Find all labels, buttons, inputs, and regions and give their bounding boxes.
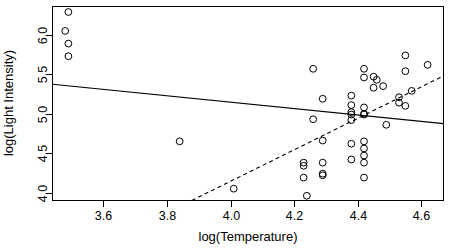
data-point bbox=[361, 159, 368, 166]
data-point bbox=[424, 61, 431, 68]
x-tick-label: 4.6 bbox=[413, 209, 430, 223]
chart-canvas: 4.04.55.05.56.0 3.63.84.04.24.44.6 log(T… bbox=[0, 0, 453, 248]
y-tick-label: 4.5 bbox=[36, 145, 50, 162]
data-point bbox=[361, 145, 368, 152]
x-tick-label: 4.4 bbox=[350, 209, 367, 223]
x-tick-label: 4.2 bbox=[286, 209, 303, 223]
data-point bbox=[348, 140, 355, 147]
data-point bbox=[361, 74, 368, 81]
data-point bbox=[303, 192, 310, 199]
data-point bbox=[402, 68, 409, 75]
fit-line-robust-fit bbox=[192, 76, 444, 201]
data-point bbox=[62, 28, 69, 35]
data-point bbox=[348, 92, 355, 99]
data-point bbox=[361, 65, 368, 72]
fitted-lines bbox=[53, 76, 444, 201]
data-point bbox=[319, 137, 326, 144]
data-point bbox=[176, 138, 183, 145]
y-axis-title: log(Light Intensity) bbox=[1, 50, 16, 156]
data-point bbox=[230, 185, 237, 192]
data-point bbox=[361, 104, 368, 111]
x-axis-ticks bbox=[104, 201, 422, 207]
y-tick-label: 4.0 bbox=[36, 185, 50, 202]
data-point bbox=[402, 102, 409, 109]
data-point bbox=[65, 40, 72, 47]
data-point bbox=[361, 152, 368, 159]
x-tick-label: 3.8 bbox=[159, 209, 176, 223]
data-point bbox=[310, 65, 317, 72]
y-tick-label: 5.0 bbox=[36, 106, 50, 123]
x-tick-label: 3.6 bbox=[95, 209, 112, 223]
x-axis-tick-labels: 3.63.84.04.24.44.6 bbox=[95, 209, 430, 223]
scatter-plot-figure: 4.04.55.05.56.0 3.63.84.04.24.44.6 log(T… bbox=[0, 0, 453, 248]
data-point bbox=[361, 174, 368, 181]
data-point bbox=[319, 159, 326, 166]
data-point bbox=[361, 138, 368, 145]
x-axis-title: log(Temperature) bbox=[199, 229, 298, 244]
data-point bbox=[402, 52, 409, 59]
data-point bbox=[370, 84, 377, 91]
data-point bbox=[319, 170, 326, 177]
data-point bbox=[319, 172, 326, 179]
data-point bbox=[348, 156, 355, 163]
y-tick-label: 5.5 bbox=[36, 66, 50, 83]
data-point bbox=[380, 83, 387, 90]
data-point bbox=[348, 102, 355, 109]
x-tick-label: 4.0 bbox=[223, 209, 240, 223]
data-point bbox=[65, 53, 72, 60]
fit-line-ols-fit bbox=[53, 84, 444, 123]
data-point bbox=[310, 116, 317, 123]
data-point bbox=[300, 174, 307, 181]
y-axis-tick-labels: 4.04.55.05.56.0 bbox=[36, 27, 50, 202]
data-point bbox=[383, 121, 390, 128]
data-point bbox=[65, 9, 72, 16]
y-tick-label: 6.0 bbox=[36, 27, 50, 44]
data-point bbox=[319, 95, 326, 102]
